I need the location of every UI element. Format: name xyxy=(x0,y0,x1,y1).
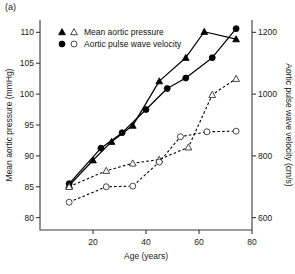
x-tick-label: 60 xyxy=(194,237,204,247)
y2-tick-label: 1000 xyxy=(258,89,277,99)
data-point-3-5 xyxy=(204,129,210,135)
y-tick-label: 80 xyxy=(25,213,35,223)
legend-marker-open-1 xyxy=(71,41,77,47)
data-point-3-2 xyxy=(130,183,136,189)
data-point-2-6 xyxy=(233,75,240,81)
y2-tick-label: 800 xyxy=(258,151,272,161)
data-point-2-4 xyxy=(185,144,192,150)
data-point-3-3 xyxy=(156,159,162,165)
x-tick-label: 20 xyxy=(88,237,98,247)
y-tick-label: 85 xyxy=(25,182,35,192)
legend-marker-open-0 xyxy=(71,29,78,35)
x-tick-label: 40 xyxy=(141,237,151,247)
y-tick-label: 110 xyxy=(20,27,34,37)
panel-label: (a) xyxy=(5,2,16,12)
y-axis-title: Mean aortic pressure (mmHg) xyxy=(4,68,14,181)
data-point-3-6 xyxy=(233,128,239,134)
data-point-1-5 xyxy=(183,75,189,81)
data-point-3-1 xyxy=(103,184,109,190)
data-point-3-4 xyxy=(177,134,183,140)
legend-label-1: Aortic pulse wave velocity xyxy=(84,39,182,49)
figure-panel: (a) 808590951001051106008001000120020406… xyxy=(0,0,295,274)
data-point-2-2 xyxy=(129,160,136,166)
legend-marker-filled-1 xyxy=(59,41,65,47)
data-point-1-7 xyxy=(233,26,239,32)
y-tick-label: 95 xyxy=(25,120,35,130)
data-point-0-6 xyxy=(201,28,208,34)
legend-marker-filled-0 xyxy=(59,29,66,35)
axis-frame xyxy=(40,20,252,230)
y-tick-label: 90 xyxy=(25,151,35,161)
y-tick-label: 100 xyxy=(20,89,34,99)
y-tick-label: 105 xyxy=(20,58,34,68)
data-point-2-5 xyxy=(209,91,216,97)
data-point-1-4 xyxy=(164,86,170,92)
data-point-1-2 xyxy=(119,130,125,136)
aortic-pressure-velocity-chart: 808590951001051106008001000120020406080A… xyxy=(0,0,295,274)
data-point-1-1 xyxy=(98,145,104,151)
data-point-1-6 xyxy=(209,55,215,61)
x-axis-title: Age (years) xyxy=(124,251,168,261)
data-point-1-3 xyxy=(143,107,149,113)
series-line-3 xyxy=(69,131,236,202)
data-point-3-0 xyxy=(66,199,72,205)
legend-label-0: Mean aortic pressure xyxy=(84,27,164,37)
y2-axis-title: Aortic pulse wave velocity (cm/s) xyxy=(284,63,294,186)
data-point-2-1 xyxy=(103,167,110,173)
y2-tick-label: 1200 xyxy=(258,27,277,37)
y2-tick-label: 600 xyxy=(258,213,272,223)
x-tick-label: 80 xyxy=(247,237,257,247)
